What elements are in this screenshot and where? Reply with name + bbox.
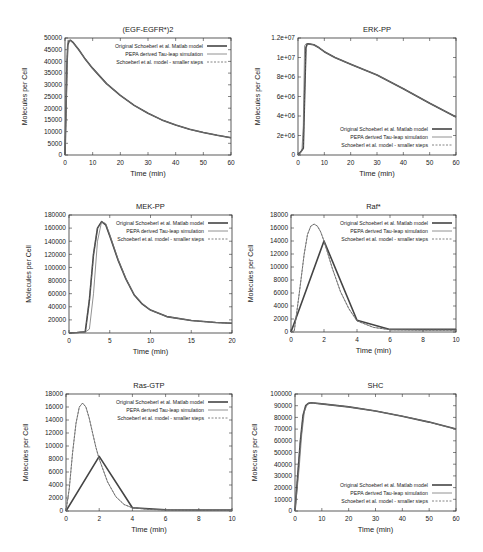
x-tick-label: 0	[63, 159, 67, 166]
y-tick-label: 0	[288, 507, 292, 514]
x-tick-label: 4	[355, 336, 359, 343]
chart-title: MEK-PP	[136, 202, 165, 211]
y-tick-label: 35000	[44, 69, 62, 76]
x-tick-label: 0	[64, 515, 68, 522]
x-tick-label: 50	[426, 515, 434, 522]
y-tick-label: 15000	[44, 116, 62, 123]
y-tick-label: 60000	[48, 290, 66, 297]
x-tick-label: 0	[289, 336, 293, 343]
legend-entry: PEPA derived Tau-leap simulation	[126, 228, 204, 234]
y-tick-label: 14000	[270, 237, 288, 244]
y-tick-label: 2000	[274, 315, 289, 322]
y-tick-label: 140000	[44, 238, 66, 245]
series-line	[65, 40, 231, 155]
y-tick-label: 8000	[49, 455, 64, 462]
y-tick-label: 70000	[274, 425, 292, 432]
y-tick-label: 8e+06	[277, 73, 296, 80]
x-tick-label: 8	[421, 336, 425, 343]
legend: Original Schoeberl et al. Matlab modelPE…	[340, 482, 452, 504]
y-tick-label: 6000	[274, 289, 289, 296]
x-axis-label: Time (min)	[131, 525, 167, 534]
x-tick-label: 10	[321, 159, 329, 166]
x-tick-label: 40	[399, 515, 407, 522]
y-tick-label: 30000	[44, 81, 62, 88]
y-tick-label: 60000	[274, 437, 292, 444]
chart-title: (EGF-EGFR*)2	[123, 25, 174, 34]
chart-shc: SHC0100002000030000400005000060000700008…	[251, 381, 460, 534]
y-tick-label: 2e+06	[277, 132, 296, 139]
chart-ras-gtp: Ras-GTP020004000600080001000012000140001…	[22, 381, 236, 534]
y-tick-label: 80000	[274, 414, 292, 421]
y-tick-label: 10000	[274, 496, 292, 503]
legend-entry: Original Schoeberl et al. Matlab model	[115, 43, 203, 49]
y-tick-label: 6e+06	[277, 93, 296, 100]
legend-entry: Schoeberl et al. model - smaller steps	[341, 236, 428, 242]
x-tick-label: 20	[228, 337, 236, 344]
legend: Original Schoeberl et al. Matlab modelPE…	[116, 399, 228, 421]
legend: Original Schoeberl et al. Matlab modelPE…	[116, 220, 228, 242]
y-tick-label: 0	[62, 329, 66, 336]
legend-entry: Original Schoeberl et al. Matlab model	[340, 126, 428, 132]
x-tick-label: 30	[372, 515, 380, 522]
y-tick-label: 10000	[44, 128, 62, 135]
y-tick-label: 10000	[45, 442, 63, 449]
x-axis-label: Time (min)	[358, 525, 394, 534]
x-axis-label: Time (min)	[359, 169, 395, 178]
y-tick-label: 80000	[48, 277, 66, 284]
legend-entry: Schoeberl et al. model - smaller steps	[116, 59, 203, 65]
x-tick-label: 40	[400, 159, 408, 166]
x-tick-label: 10	[452, 336, 460, 343]
legend-entry: Schoeberl et al. model - smaller steps	[117, 236, 204, 242]
chart-raf: Raf*020004000600080001000012000140001600…	[247, 202, 460, 355]
y-tick-label: 4000	[49, 481, 64, 488]
y-tick-label: 40000	[274, 461, 292, 468]
y-tick-label: 30000	[274, 472, 292, 479]
x-tick-label: 10	[228, 515, 236, 522]
x-tick-label: 2	[97, 515, 101, 522]
legend: Original Schoeberl et al. Matlab modelPE…	[340, 220, 452, 242]
legend-entry: PEPA derived Tau-leap simulation	[126, 407, 204, 413]
y-axis-label: Molecules per Cell	[247, 244, 255, 302]
x-tick-label: 60	[452, 159, 460, 166]
x-tick-label: 15	[188, 337, 196, 344]
y-axis-label: Molecules per Cell	[21, 67, 29, 125]
x-tick-label: 50	[426, 159, 434, 166]
series-line	[66, 456, 232, 511]
x-tick-label: 40	[172, 159, 180, 166]
y-tick-label: 14000	[45, 416, 63, 423]
legend-entry: Original Schoeberl et al. Matlab model	[116, 399, 204, 405]
y-tick-label: 4e+06	[277, 112, 296, 119]
y-tick-label: 1e+07	[277, 54, 296, 61]
y-tick-label: 0	[59, 507, 63, 514]
y-tick-label: 2000	[49, 494, 64, 501]
x-tick-label: 20	[347, 159, 355, 166]
chart-title: SHC	[368, 381, 384, 390]
y-tick-label: 12000	[270, 250, 288, 257]
x-tick-label: 60	[227, 159, 235, 166]
y-tick-label: 40000	[44, 58, 62, 65]
y-tick-label: 5000	[48, 140, 63, 147]
legend-entry: Original Schoeberl et al. Matlab model	[340, 220, 428, 226]
x-tick-label: 20	[345, 515, 353, 522]
y-tick-label: 18000	[45, 390, 63, 397]
y-tick-label: 20000	[44, 105, 62, 112]
y-tick-label: 40000	[48, 303, 66, 310]
x-tick-label: 0	[67, 337, 71, 344]
y-tick-label: 100000	[270, 390, 292, 397]
y-tick-label: 6000	[49, 468, 64, 475]
y-axis-label: Molecules per Cell	[25, 245, 33, 303]
y-tick-label: 50000	[274, 449, 292, 456]
x-tick-label: 0	[296, 159, 300, 166]
x-tick-label: 50	[200, 159, 208, 166]
y-tick-label: 4000	[274, 302, 289, 309]
x-axis-label: Time (min)	[133, 347, 169, 356]
y-tick-label: 50000	[44, 34, 62, 41]
legend-entry: Schoeberl et al. model - smaller steps	[117, 415, 204, 421]
y-tick-label: 8000	[274, 276, 289, 283]
y-axis-label: Molecules per Cell	[254, 67, 262, 125]
series-line	[291, 241, 456, 332]
y-tick-label: 16000	[45, 403, 63, 410]
y-tick-label: 0	[291, 151, 295, 158]
charts-canvas: (EGF-EGFR*)20500010000150002000025000300…	[0, 0, 483, 552]
x-tick-label: 10	[147, 337, 155, 344]
